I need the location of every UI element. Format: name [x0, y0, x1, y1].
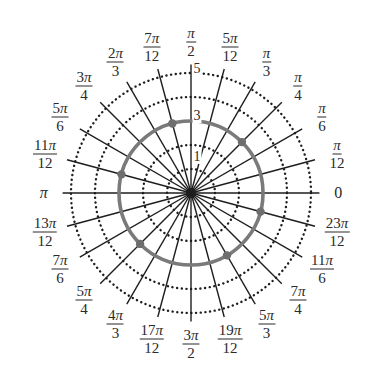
angle-label-numerator: 2π	[107, 46, 124, 63]
angle-label-denominator: 4	[294, 300, 302, 316]
angle-label-denominator: 12	[37, 233, 52, 249]
plot-point-3	[136, 240, 144, 248]
angle-label-numerator: 7π	[289, 283, 306, 300]
angle-label-text: π	[40, 184, 48, 201]
angle-label: 3π4	[76, 70, 93, 103]
plot-point-1	[168, 119, 176, 127]
angle-label-denominator: 4	[294, 87, 302, 103]
angle-label-denominator: 12	[330, 233, 345, 249]
plot-point-0	[238, 138, 246, 146]
angle-label-denominator: 12	[330, 154, 345, 170]
angle-label: 5π4	[76, 283, 93, 316]
ray-11	[67, 160, 191, 193]
radius-label-5: 5	[193, 62, 202, 76]
angle-label-denominator: 3	[112, 324, 120, 340]
ray-19	[191, 193, 224, 317]
angle-label-numerator: 17π	[140, 323, 165, 340]
plot-point-2	[117, 170, 125, 178]
angle-label-denominator: 4	[80, 87, 88, 103]
angle-label-numerator: 7π	[52, 252, 69, 269]
angle-label-numerator: 5π	[222, 30, 239, 47]
ray-13	[67, 193, 191, 226]
angle-label-denominator: 6	[318, 118, 326, 134]
angle-label: 17π12	[140, 323, 165, 356]
plot-point-4	[223, 251, 231, 259]
angle-label: 23π12	[325, 216, 350, 249]
angle-label: 13π12	[33, 216, 58, 249]
angle-label-denominator: 12	[223, 340, 238, 356]
angle-label-denominator: 2	[187, 345, 195, 361]
angle-label: 4π3	[107, 307, 124, 340]
ray-7	[158, 69, 191, 193]
angle-label-numerator: 5π	[52, 101, 69, 118]
ray-10	[80, 129, 191, 193]
angle-label-numerator: 11π	[33, 137, 57, 154]
angle-label-denominator: 6	[318, 269, 326, 285]
angle-label-denominator: 12	[223, 47, 238, 63]
polar-diagram: 0π12π6π4π35π12π27π122π33π45π611π12π13π12…	[0, 0, 374, 382]
angle-label-numerator: π	[293, 70, 303, 87]
angle-label: 11π6	[310, 252, 334, 285]
origin-hub	[186, 188, 196, 198]
angle-label-numerator: π	[186, 25, 196, 42]
angle-label-denominator: 6	[56, 118, 64, 134]
angle-label: 19π12	[218, 323, 243, 356]
angle-label: 2π3	[107, 46, 124, 79]
angle-label-denominator: 6	[56, 269, 64, 285]
angle-label: π4	[293, 70, 303, 103]
radius-label-3: 3	[193, 109, 202, 123]
angle-label-numerator: 7π	[143, 30, 160, 47]
angle-label: 5π3	[258, 307, 275, 340]
angle-label-denominator: 4	[80, 300, 88, 316]
angle-label-numerator: 3π	[76, 70, 93, 87]
ray-17	[158, 193, 191, 317]
angle-label: 3π2	[182, 328, 199, 361]
angle-label-numerator: 5π	[76, 283, 93, 300]
angle-label-numerator: π	[317, 101, 327, 118]
angle-label-numerator: π	[262, 46, 272, 63]
angle-label: π	[40, 185, 48, 201]
angle-label: 7π12	[143, 30, 160, 63]
plot-point-5	[256, 207, 264, 215]
angle-label: π2	[186, 25, 196, 58]
angle-label-numerator: π	[332, 137, 342, 154]
angle-label: 7π6	[52, 252, 69, 285]
angle-label-numerator: 4π	[107, 307, 124, 324]
angle-label-denominator: 3	[263, 324, 271, 340]
radius-label-1: 1	[193, 150, 202, 164]
angle-label: π6	[317, 101, 327, 134]
angle-label-numerator: 11π	[310, 252, 334, 269]
angle-label: 0	[334, 185, 342, 201]
ray-1	[191, 160, 315, 193]
angle-label: π3	[262, 46, 272, 79]
angle-label-numerator: 3π	[182, 328, 199, 345]
angle-label: 7π4	[289, 283, 306, 316]
ray-4	[191, 82, 255, 193]
angle-label-text: 0	[334, 184, 342, 201]
angle-label-denominator: 12	[144, 47, 159, 63]
angle-label-numerator: 23π	[325, 216, 350, 233]
angle-label-denominator: 2	[187, 42, 195, 58]
ray-5	[191, 69, 224, 193]
angle-label: 5π12	[222, 30, 239, 63]
ray-23	[191, 193, 315, 226]
angle-label: 11π12	[33, 137, 57, 170]
angle-label-numerator: 13π	[33, 216, 58, 233]
angle-label-denominator: 12	[144, 340, 159, 356]
angle-label: π12	[330, 137, 345, 170]
angle-label-numerator: 5π	[258, 307, 275, 324]
angle-rays	[63, 65, 320, 322]
angle-label-denominator: 3	[263, 63, 271, 79]
angle-label-denominator: 12	[37, 154, 52, 170]
angle-label-denominator: 3	[112, 63, 120, 79]
angle-label-numerator: 19π	[218, 323, 243, 340]
angle-label: 5π6	[52, 101, 69, 134]
